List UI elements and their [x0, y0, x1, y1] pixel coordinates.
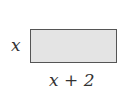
- rectangle-shape: [30, 29, 117, 63]
- width-label: x + 2: [49, 72, 94, 89]
- height-label: x: [11, 37, 21, 54]
